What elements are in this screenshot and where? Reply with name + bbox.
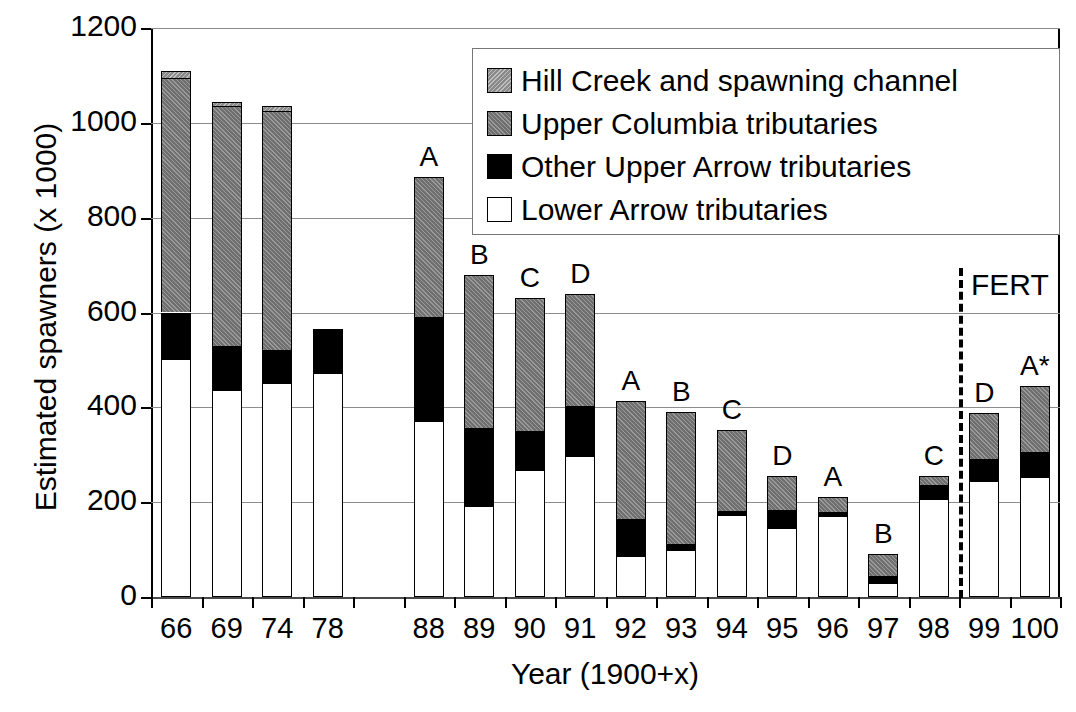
y-tick-value: 200 <box>87 483 137 517</box>
x-tick-label-92: 92 <box>615 612 647 645</box>
bar-segment-lower <box>161 360 191 597</box>
bar-annotation-88: A <box>419 143 438 171</box>
x-tick-mark <box>404 597 406 608</box>
x-tick-mark <box>959 597 961 608</box>
bar-segment-upper <box>161 78 191 313</box>
x-tick-mark <box>858 597 860 608</box>
bar-segment-lower <box>515 471 545 597</box>
legend-swatch-lower-icon <box>487 197 512 222</box>
bar-annotation-99: D <box>974 379 994 407</box>
y-tick-mark <box>141 502 151 504</box>
bar-segment-other <box>717 511 747 517</box>
bar-segment-other <box>818 512 848 518</box>
x-tick-label-99: 99 <box>968 612 1000 645</box>
bar-segment-upper <box>767 476 797 510</box>
x-tick-mark <box>303 597 305 608</box>
bar-segment-upper <box>1020 386 1050 452</box>
gridline-1200 <box>151 28 1060 29</box>
y-tick-value: 600 <box>87 294 137 328</box>
bar-segment-lower <box>414 422 444 597</box>
bar-74[interactable] <box>262 106 292 597</box>
bar-segment-upper <box>818 497 848 511</box>
bar-segment-upper <box>515 298 545 431</box>
x-tick-label-69: 69 <box>211 612 243 645</box>
x-tick-mark <box>606 597 608 608</box>
bar-90[interactable]: C <box>515 298 545 597</box>
bar-segment-other <box>414 317 444 421</box>
bar-91[interactable]: D <box>565 294 595 597</box>
bar-segment-other <box>767 510 797 529</box>
bar-segment-upper <box>666 412 696 544</box>
x-tick-label-98: 98 <box>918 612 950 645</box>
bar-segment-lower <box>565 457 595 597</box>
bar-segment-lower <box>969 482 999 597</box>
legend-item-lower[interactable]: Lower Arrow tributaries <box>487 188 1059 231</box>
x-tick-label-66: 66 <box>160 612 192 645</box>
bar-66[interactable] <box>161 71 191 597</box>
bar-97[interactable]: B <box>868 554 898 597</box>
legend-item-other[interactable]: Other Upper Arrow tributaries <box>487 145 1059 188</box>
bar-segment-other <box>565 406 595 457</box>
bar-segment-lower <box>464 507 494 597</box>
x-tick-label-100: 100 <box>1011 612 1059 645</box>
y-tick-mark <box>141 28 151 30</box>
x-tick-label-94: 94 <box>716 612 748 645</box>
bar-annotation-98: C <box>924 442 944 470</box>
bar-segment-other <box>464 428 494 507</box>
bar-segment-lower <box>919 500 949 597</box>
bar-95[interactable]: D <box>767 476 797 597</box>
bar-78[interactable] <box>313 329 343 597</box>
x-axis-title: Year (1900+x) <box>150 657 1060 691</box>
legend-swatch-upper-icon <box>487 111 512 136</box>
bar-segment-other <box>919 485 949 500</box>
bar-100[interactable]: A* <box>1020 386 1050 597</box>
x-tick-mark <box>454 597 456 608</box>
spawners-stacked-bar-chart: Estimated spawners (x 1000) Year (1900+x… <box>0 0 1076 712</box>
x-tick-mark <box>202 597 204 608</box>
bar-88[interactable]: A <box>414 177 444 597</box>
legend-label: Lower Arrow tributaries <box>521 195 828 225</box>
x-tick-label-78: 78 <box>312 612 344 645</box>
bar-annotation-91: D <box>570 260 590 288</box>
bar-96[interactable]: A <box>818 497 848 597</box>
y-tick-value: 1000 <box>70 104 137 138</box>
bar-89[interactable]: B <box>464 275 494 597</box>
bar-segment-lower <box>767 529 797 597</box>
legend-label: Other Upper Arrow tributaries <box>521 152 911 182</box>
bar-segment-upper <box>262 111 292 350</box>
bar-98[interactable]: C <box>919 476 949 597</box>
bar-94[interactable]: C <box>717 430 747 597</box>
bar-annotation-89: B <box>470 241 489 269</box>
bar-segment-other <box>515 431 545 471</box>
x-tick-label-93: 93 <box>665 612 697 645</box>
x-tick-mark <box>808 597 810 608</box>
x-tick-label-97: 97 <box>867 612 899 645</box>
y-tick-mark <box>141 218 151 220</box>
legend-item-upper[interactable]: Upper Columbia tributaries <box>487 102 1059 145</box>
bar-92[interactable]: A <box>616 401 646 597</box>
x-tick-mark <box>1010 597 1012 608</box>
bar-annotation-100: A* <box>1020 352 1050 380</box>
legend-label: Upper Columbia tributaries <box>521 109 878 139</box>
bar-segment-other <box>666 544 696 551</box>
x-tick-mark <box>505 597 507 608</box>
legend-swatch-hill-icon <box>487 68 512 93</box>
bar-segment-lower <box>1020 478 1050 597</box>
y-tick-mark <box>141 123 151 125</box>
bar-93[interactable]: B <box>666 412 696 597</box>
x-tick-mark <box>707 597 709 608</box>
bar-segment-other <box>1020 452 1050 478</box>
bar-69[interactable] <box>212 101 242 597</box>
bar-99[interactable]: D <box>969 413 999 597</box>
bar-segment-upper <box>212 106 242 345</box>
x-tick-label-96: 96 <box>817 612 849 645</box>
legend-item-hill[interactable]: Hill Creek and spawning channel <box>487 59 1059 102</box>
bar-segment-upper <box>464 275 494 428</box>
bar-segment-other <box>212 346 242 391</box>
y-tick-value: 800 <box>87 199 137 233</box>
x-tick-label-74: 74 <box>261 612 293 645</box>
fert-marker-label: FERT <box>971 268 1049 302</box>
x-tick-label-91: 91 <box>564 612 596 645</box>
bar-segment-upper <box>565 294 595 405</box>
bar-segment-upper <box>616 401 646 519</box>
